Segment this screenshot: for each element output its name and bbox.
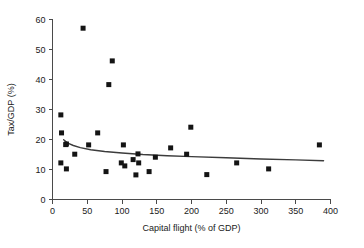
data-point-marker bbox=[104, 169, 109, 174]
data-point-marker bbox=[136, 160, 141, 165]
chart-figure: 0501001502002503003504000102030405060Cap… bbox=[0, 0, 364, 248]
data-point-marker bbox=[58, 160, 63, 165]
y-tick-label: 40 bbox=[35, 75, 45, 85]
data-point-marker bbox=[135, 151, 140, 156]
data-point-marker bbox=[184, 152, 189, 157]
y-tick-label: 10 bbox=[35, 165, 45, 175]
data-point-marker bbox=[58, 112, 63, 117]
x-tick-label: 0 bbox=[50, 206, 55, 216]
y-axis-title: Tax/GDP (%) bbox=[6, 83, 16, 135]
data-point-marker bbox=[122, 163, 127, 168]
x-axis-ticks: 050100150200250300350400 bbox=[50, 200, 338, 216]
data-point-marker bbox=[59, 130, 64, 135]
data-point-marker bbox=[131, 157, 136, 162]
data-point-marker bbox=[168, 145, 173, 150]
data-point-marker bbox=[121, 142, 126, 147]
trend-line bbox=[64, 140, 324, 161]
x-tick-label: 350 bbox=[288, 206, 303, 216]
data-point-marker bbox=[106, 82, 111, 87]
data-point-marker bbox=[147, 169, 152, 174]
data-point-marker bbox=[110, 58, 115, 63]
data-point-marker bbox=[204, 172, 209, 177]
y-tick-label: 60 bbox=[35, 15, 45, 25]
scatter-plot: 0501001502002503003504000102030405060Cap… bbox=[0, 0, 364, 248]
x-tick-label: 100 bbox=[114, 206, 129, 216]
data-point-marker bbox=[64, 142, 69, 147]
data-point-marker bbox=[133, 172, 138, 177]
data-point-marker bbox=[95, 130, 100, 135]
data-point-marker bbox=[266, 166, 271, 171]
y-tick-label: 30 bbox=[35, 105, 45, 115]
data-point-marker bbox=[86, 142, 91, 147]
y-tick-label: 20 bbox=[35, 135, 45, 145]
data-point-marker bbox=[153, 155, 158, 160]
axes-group bbox=[53, 20, 331, 200]
y-tick-label: 0 bbox=[40, 195, 45, 205]
data-point-marker bbox=[81, 26, 86, 31]
data-point-marker bbox=[317, 142, 322, 147]
x-tick-label: 400 bbox=[323, 206, 338, 216]
x-tick-label: 300 bbox=[253, 206, 268, 216]
x-tick-label: 150 bbox=[149, 206, 164, 216]
y-axis-ticks: 0102030405060 bbox=[35, 15, 52, 205]
data-point-marker bbox=[72, 152, 77, 157]
x-tick-label: 200 bbox=[184, 206, 199, 216]
y-tick-label: 50 bbox=[35, 45, 45, 55]
data-point-marker bbox=[64, 166, 69, 171]
x-axis-title: Capital flight (% of GDP) bbox=[142, 223, 240, 233]
data-point-marker bbox=[234, 160, 239, 165]
data-points-group bbox=[58, 26, 322, 178]
data-point-marker bbox=[188, 125, 193, 130]
x-tick-label: 250 bbox=[219, 206, 234, 216]
x-tick-label: 50 bbox=[82, 206, 92, 216]
